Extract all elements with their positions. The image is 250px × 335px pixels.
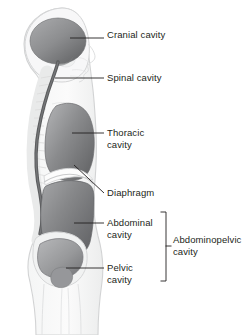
label-spinal-cavity: Spinal cavity (107, 72, 162, 84)
label-diaphragm: Diaphragm (107, 187, 154, 199)
label-cranial-cavity: Cranial cavity (107, 29, 165, 41)
label-abdominal-cavity: Abdominal cavity (107, 217, 153, 240)
label-pelvic-cavity: Pelvic cavity (107, 262, 133, 285)
body-cavities-diagram: Cranial cavity Spinal cavity Thoracic ca… (0, 0, 250, 335)
label-thoracic-cavity: Thoracic cavity (107, 127, 144, 150)
abdominopelvic-bracket (161, 212, 171, 281)
label-abdominopelvic-cavity: Abdominopelvic cavity (173, 234, 241, 257)
